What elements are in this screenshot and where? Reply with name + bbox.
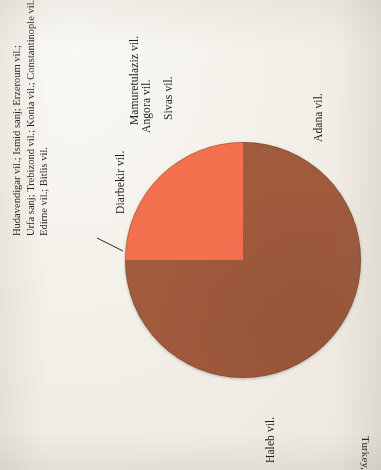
grouped-vilayets-note-line-3: Edirne vil.; Bitlis vil. [37, 0, 51, 236]
slice-label-sivas: Sivas vil. [162, 76, 174, 120]
grouped-vilayets-note: Hudavendigar vil.; Ismid sanj; Erzeroum … [10, 0, 51, 236]
diarbekir-leader-line [96, 236, 126, 258]
figure-caption: Turkey, [360, 436, 372, 470]
slice-label-adana: Adana vil. [312, 93, 324, 142]
slice-label-haleb: Haleb vil. [264, 417, 276, 463]
slice-label-angora: Angora vil. [140, 80, 152, 133]
grouped-vilayets-note-line-2: Urfa sanj; Trebizond vil.; Konia vil.; C… [24, 0, 38, 236]
pie-slices [125, 142, 361, 378]
slice-label-diarbekir: Diarbekir vil. [114, 151, 126, 214]
grouped-vilayets-note-line-1: Hudavendigar vil.; Ismid sanj; Erzeroum … [10, 0, 24, 236]
slice-label-mamuretulaziz: Mamuretulaziz vil. [128, 36, 140, 125]
pie-chart [125, 142, 361, 378]
scanned-page: Hudavendigar vil.; Ismid sanj; Erzeroum … [0, 0, 381, 470]
